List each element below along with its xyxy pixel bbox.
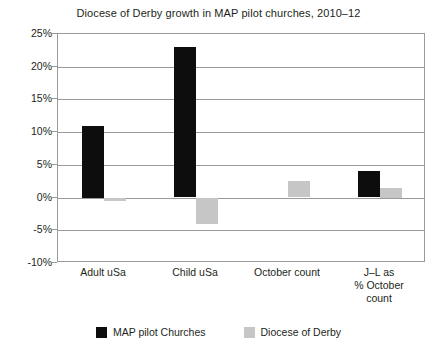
y-axis-tick-label: 20% xyxy=(4,61,52,71)
legend-item-1[interactable]: Diocese of Derby xyxy=(244,326,342,338)
x-axis-group-label: October count xyxy=(241,266,333,279)
gridline xyxy=(58,99,424,100)
y-axis-tick-label: 5% xyxy=(4,159,52,169)
x-axis-label-line: Child uSa xyxy=(149,266,241,279)
y-axis-tick-label: 0% xyxy=(4,192,52,202)
y-axis-tick-label: -5% xyxy=(4,224,52,234)
plot-area xyxy=(57,33,425,262)
x-axis-label-line: October count xyxy=(241,266,333,279)
bar-1-1 xyxy=(196,198,218,224)
legend-swatch-icon xyxy=(96,327,107,338)
legend-label: Diocese of Derby xyxy=(261,326,342,338)
gridline xyxy=(58,165,424,166)
x-axis-group-label: J–L as% Octobercount xyxy=(333,266,425,305)
y-axis-tick-label: 15% xyxy=(4,93,52,103)
gridline xyxy=(58,230,424,231)
legend-label: MAP pilot Churches xyxy=(113,326,206,338)
x-axis-label-line: % October xyxy=(333,279,425,292)
x-axis-group-label: Adult uSa xyxy=(57,266,149,279)
chart-legend: MAP pilot ChurchesDiocese of Derby xyxy=(0,326,437,338)
bar-0-3 xyxy=(358,171,380,197)
x-axis-label-line: J–L as xyxy=(333,266,425,279)
legend-item-0[interactable]: MAP pilot Churches xyxy=(96,326,206,338)
bar-0-0 xyxy=(82,126,104,198)
y-axis-tick-mark xyxy=(52,262,57,263)
y-axis-labels: 25%20%15%10%5%0%-5%-10% xyxy=(0,33,52,262)
y-axis-tick-label: 10% xyxy=(4,126,52,136)
x-axis-group-label: Child uSa xyxy=(149,266,241,279)
bar-1-0 xyxy=(104,198,126,201)
y-axis-tick-label: -10% xyxy=(4,257,52,267)
gridline xyxy=(58,132,424,133)
chart-title: Diocese of Derby growth in MAP pilot chu… xyxy=(0,6,437,20)
y-axis-tick-label: 25% xyxy=(4,28,52,38)
x-axis-label-line: Adult uSa xyxy=(57,266,149,279)
bar-1-3 xyxy=(380,188,402,198)
x-axis-label-line: count xyxy=(333,292,425,305)
bar-0-1 xyxy=(174,47,196,197)
chart-container: Diocese of Derby growth in MAP pilot chu… xyxy=(0,0,437,353)
legend-swatch-icon xyxy=(244,327,255,338)
bar-1-2 xyxy=(288,181,310,197)
x-axis-labels: Adult uSaChild uSaOctober countJ–L as% O… xyxy=(57,266,425,326)
gridline xyxy=(58,67,424,68)
